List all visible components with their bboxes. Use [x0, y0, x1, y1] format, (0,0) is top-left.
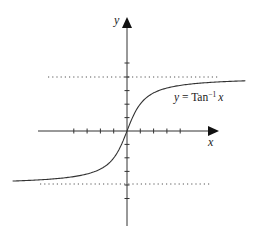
- y-axis-arrow-icon: [122, 17, 132, 28]
- arctan-plot: y x y = Tan−1x: [0, 0, 257, 235]
- x-axis-label: x: [207, 135, 214, 149]
- curve-label: y = Tan−1x: [173, 90, 224, 105]
- y-axis-label: y: [113, 13, 120, 27]
